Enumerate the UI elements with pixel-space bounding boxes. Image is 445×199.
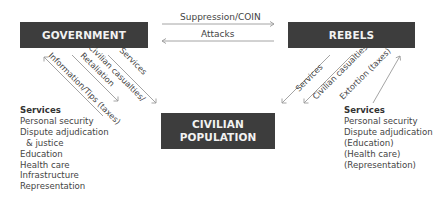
- gov-service-item: Representation: [20, 181, 109, 192]
- rebel-services-list: Services Personal security Dispute adjud…: [344, 105, 433, 170]
- rebel-service-item: (Education): [344, 138, 433, 149]
- gov-service-item: Health care: [20, 160, 109, 171]
- arrow-attacks: [162, 39, 274, 44]
- gov-service-item: & justice: [20, 138, 109, 149]
- gov-service-item: Infrastructure: [20, 170, 109, 181]
- gov-service-item: Education: [20, 149, 109, 160]
- label-suppression-coin: Suppression/COIN: [180, 12, 261, 22]
- rebel-services-title: Services: [344, 105, 433, 116]
- rebel-service-item: Dispute adjudication: [344, 127, 433, 138]
- label-attacks: Attacks: [201, 29, 234, 39]
- rebel-service-item: Personal security: [344, 116, 433, 127]
- government-services-title: Services: [20, 105, 109, 116]
- arrow-suppression: [162, 22, 274, 27]
- rebel-service-item: (Representation): [344, 160, 433, 171]
- gov-service-item: Dispute adjudication: [20, 127, 109, 138]
- gov-service-item: Personal security: [20, 116, 109, 127]
- rebel-service-item: (Health care): [344, 149, 433, 160]
- government-services-list: Services Personal security Dispute adjud…: [20, 105, 109, 192]
